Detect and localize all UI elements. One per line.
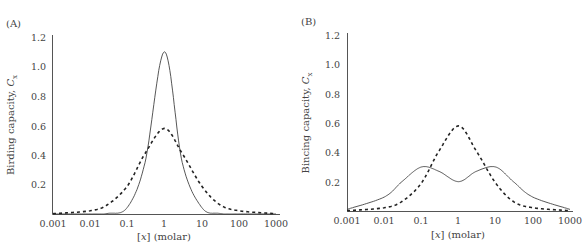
panel-b-ytick: 1.2 <box>316 30 340 41</box>
panel-a-xtick: 0.01 <box>79 218 100 229</box>
panel-b-xtick: 10 <box>489 215 501 226</box>
panel-b-xtick: 0.1 <box>413 215 428 226</box>
panel-b: (B) 1.2 1.0 0.8 0.6 0.4 0.2 0.001 0.01 0… <box>293 0 587 248</box>
panel-b-ytick: 0.6 <box>316 118 340 129</box>
panel-a-ytick: 0.4 <box>22 150 46 161</box>
panel-b-y-axis-label: Bincing capacity, Cx <box>300 73 314 174</box>
panel-b-xtick: 1000 <box>558 215 582 226</box>
panel-a-ytick: 1.2 <box>22 32 46 43</box>
panel-a-x-axis-label: [x] (molar) <box>137 231 191 242</box>
panel-a-ytick: 0.6 <box>22 121 46 132</box>
panel-b-xtick: 0.001 <box>333 215 360 226</box>
panel-a-ytick: 0.2 <box>22 179 46 190</box>
panel-b-dashed-curve <box>347 126 570 211</box>
panel-b-ytick: 0.4 <box>316 147 340 158</box>
panel-a-ytick: 1.0 <box>22 61 46 72</box>
panel-a-xtick: 1 <box>161 218 167 229</box>
panel-b-x-axis-label: [x] (molar) <box>431 229 485 240</box>
panel-a-ytick: 0.8 <box>22 91 46 102</box>
panel-b-xtick: 0.01 <box>373 215 394 226</box>
panel-a-xtick: 1000 <box>264 218 288 229</box>
panel-b-ytick: 0.2 <box>316 177 340 188</box>
panel-a-label: (A) <box>6 18 21 29</box>
panel-b-ytick: 1.0 <box>316 59 340 70</box>
panel-a-xtick: 10 <box>196 218 208 229</box>
panel-a-xtick: 0.1 <box>119 218 134 229</box>
panel-a-dashed-curve <box>53 128 276 213</box>
panel-a: (A) 1.2 1.0 0.8 0.6 0.4 0.2 0.001 0.01 0… <box>0 0 293 248</box>
panel-b-solid-curve <box>347 167 570 210</box>
panel-b-ytick: 0.8 <box>316 89 340 100</box>
panel-a-xtick: 100 <box>230 218 248 229</box>
panel-b-label: (B) <box>301 16 316 27</box>
panel-b-xtick: 1 <box>455 215 461 226</box>
panel-a-solid-curve <box>53 52 276 214</box>
panel-a-y-axis-label: Birding capacity, Cx <box>5 75 19 175</box>
panel-a-xtick: 0.001 <box>39 218 66 229</box>
panel-b-xtick: 100 <box>524 215 542 226</box>
